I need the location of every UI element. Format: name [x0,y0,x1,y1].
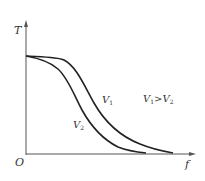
diagram-canvas: T O f V1 V2 V1>V2 [0,0,205,181]
y-axis-label: T [14,24,23,37]
curve-v2-label: V2 [73,119,84,131]
curve-v1-label: V1 [102,94,113,106]
origin-label: O [15,156,24,169]
y-axis-arrow-icon [24,20,28,27]
x-axis-label: f [184,158,191,171]
x-axis-arrow-icon [189,152,196,156]
velocity-relation-annotation: V1>V2 [143,93,174,105]
